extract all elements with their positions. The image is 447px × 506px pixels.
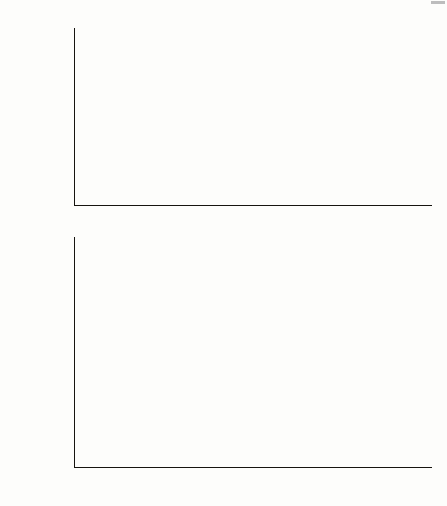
top-chart-x-axis xyxy=(74,205,432,206)
bottom-chart-x-axis xyxy=(74,467,432,468)
top-chart-bars xyxy=(74,29,432,205)
top-chart-y-axis-title xyxy=(18,46,52,196)
percent-chart-panel xyxy=(74,237,432,468)
legend xyxy=(86,22,276,24)
bottom-chart-bars xyxy=(74,237,432,467)
bottom-chart-y-axis-title xyxy=(18,250,52,455)
probability-chart-panel xyxy=(74,28,432,206)
figure-root xyxy=(0,0,447,506)
page-corner-artifact xyxy=(431,1,445,4)
